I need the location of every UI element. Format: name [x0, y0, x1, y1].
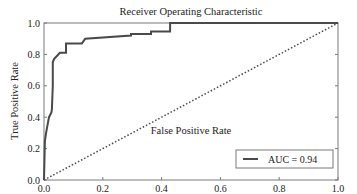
- x-tick-label: 0.6: [214, 183, 227, 194]
- y-tick-label: 0.8: [28, 49, 41, 60]
- roc-chart: Receiver Operating Characteristic 0.00.2…: [0, 0, 357, 194]
- y-tick-label: 0.0: [28, 175, 41, 186]
- x-tick-label: 0.4: [155, 183, 168, 194]
- x-axis-label: False Positive Rate: [151, 125, 232, 136]
- legend: AUC = 0.94: [236, 150, 333, 168]
- y-tick-label: 1.0: [28, 18, 41, 29]
- chart-title: Receiver Operating Characteristic: [120, 6, 263, 17]
- x-tick-label: 0.2: [97, 183, 110, 194]
- legend-label: AUC = 0.94: [268, 154, 317, 165]
- y-tick-label: 0.2: [28, 143, 41, 154]
- x-tick-label: 0.8: [273, 183, 286, 194]
- x-tick-label: 1.0: [332, 183, 345, 194]
- y-tick-label: 0.6: [28, 80, 41, 91]
- y-tick-label: 0.4: [28, 112, 41, 123]
- y-axis-label: True Positive Rate: [9, 62, 20, 140]
